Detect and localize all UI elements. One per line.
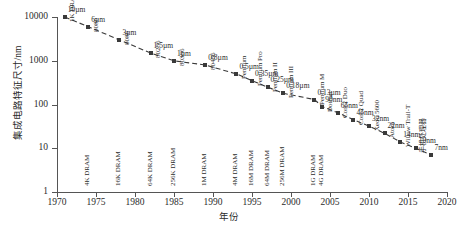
memory-label: 4K DRAM — [84, 155, 92, 186]
memory-label: 16K DRAM — [115, 151, 123, 186]
y-tick — [52, 61, 58, 62]
data-marker — [398, 140, 402, 144]
x-tick-label: 2005 — [310, 197, 350, 208]
data-marker — [172, 59, 176, 63]
data-marker — [429, 153, 433, 157]
data-marker — [281, 91, 285, 95]
data-marker — [336, 111, 340, 115]
processor-label: Pentium II — [272, 62, 280, 92]
processor-label: Core2 Duo — [342, 87, 350, 118]
ic-feature-size-chart: 110100100010000 197019751980198519901995… — [0, 0, 457, 236]
processor-label: Willow Trail-T — [405, 105, 413, 147]
processor-label: 80286 — [155, 41, 163, 59]
processor-label: Atom — [389, 122, 397, 138]
processor-label: 1K DRAM(动态随机存储器)4004 — [69, 0, 77, 22]
processor-label: 手机处理器 — [420, 118, 428, 153]
data-marker — [266, 85, 270, 89]
x-tick-label: 2020 — [427, 197, 457, 208]
memory-label: 4M DRAM — [232, 154, 240, 186]
data-marker — [234, 72, 238, 76]
data-marker — [117, 38, 121, 42]
y-tick — [52, 148, 58, 149]
memory-label: 1M DRAM — [201, 154, 209, 186]
data-marker — [203, 63, 207, 67]
processor-label: Core2 Quad — [358, 91, 366, 125]
data-marker — [86, 25, 90, 29]
processor-label: Pentium Pro — [257, 51, 265, 86]
y-tick-label: 10 — [0, 143, 48, 153]
data-marker — [250, 79, 254, 83]
data-marker — [149, 51, 153, 55]
x-tick-label: 1990 — [193, 197, 233, 208]
y-tick — [52, 105, 58, 106]
x-tick-label: 1985 — [154, 197, 194, 208]
memory-label: 16M DRAM — [248, 150, 256, 186]
processor-label: 8086 — [124, 31, 132, 45]
memory-label: 256K DRAM — [170, 148, 178, 186]
x-tick-label: 1975 — [76, 197, 116, 208]
y-tick-label: 10000 — [0, 12, 48, 22]
x-tick-label: 2015 — [388, 197, 428, 208]
y-tick — [52, 17, 58, 18]
y-tick-label: 1 — [0, 187, 48, 197]
plot-area: 110100100010000 197019751980198519901995… — [0, 0, 457, 236]
data-marker — [320, 105, 324, 109]
memory-label: 4G DRAM — [318, 155, 326, 186]
x-tick-label: 1995 — [232, 197, 272, 208]
processor-label: Dothan — [327, 91, 335, 112]
y-axis-title: 集成电路特征尺寸/nm — [13, 18, 23, 168]
x-tick-label: 1980 — [115, 197, 155, 208]
data-marker — [367, 124, 371, 128]
y-tick-label: 1000 — [0, 56, 48, 66]
x-tick-label: 2000 — [271, 197, 311, 208]
data-marker — [63, 15, 67, 19]
data-marker — [351, 118, 355, 122]
processor-label: 8080 — [93, 18, 101, 32]
processor-label: Pentium — [241, 56, 249, 79]
y-tick-label: 100 — [0, 100, 48, 110]
x-tick-label: 2010 — [349, 197, 389, 208]
x-axis-title: 年份 — [0, 209, 457, 223]
processor-label: Pentium III — [288, 66, 296, 98]
memory-label: 64K DRAM — [147, 151, 155, 186]
memory-label: 256M DRAM — [279, 147, 287, 186]
processor-label: 80386 — [179, 48, 187, 66]
x-tick-label: 1970 — [37, 197, 77, 208]
processor-label: Xeon 5600 — [374, 100, 382, 131]
data-marker — [414, 146, 418, 150]
figure-caption — [0, 225, 457, 236]
data-marker — [312, 98, 316, 102]
feature-size-label: 7nm — [434, 144, 447, 152]
data-marker — [383, 131, 387, 135]
processor-label: 80486 — [210, 52, 218, 70]
memory-label: 64M DRAM — [264, 150, 272, 186]
